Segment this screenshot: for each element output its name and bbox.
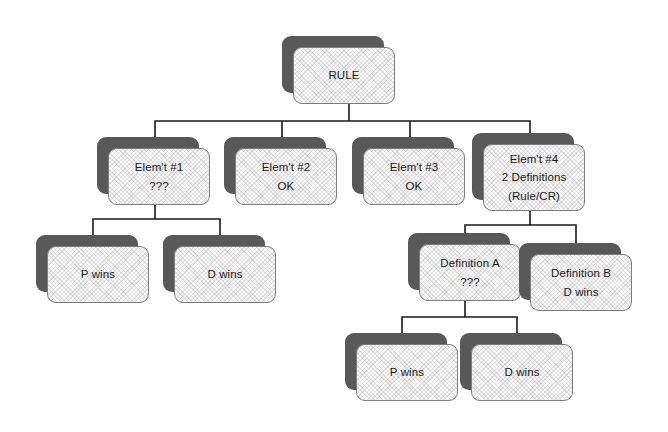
node-label-line: ??? — [460, 276, 480, 288]
node-label-line: D wins — [504, 366, 539, 378]
node-label-line: Definition A — [440, 257, 499, 269]
node-element-3[interactable]: Elem't #3OK — [352, 137, 465, 205]
node-left-p-wins[interactable]: P wins — [36, 235, 149, 303]
node-label-line: Elem't #3 — [390, 161, 438, 173]
node-label-line: OK — [278, 180, 295, 192]
diagram-canvas: RULEElem't #1???Elem't #2OKElem't #3OKEl… — [0, 0, 668, 432]
node-face[interactable]: Definition A??? — [419, 244, 521, 301]
node-label-line: P wins — [81, 268, 115, 280]
connector-definition-a-to-outcomes — [402, 301, 517, 333]
node-bottom-p-wins[interactable]: P wins — [345, 333, 458, 401]
node-element-1[interactable]: Elem't #1??? — [97, 137, 210, 205]
node-face[interactable]: P wins — [356, 344, 458, 401]
node-face[interactable]: D wins — [174, 246, 276, 303]
node-face[interactable]: Elem't #3OK — [363, 148, 465, 205]
node-definition-a[interactable]: Definition A??? — [408, 233, 521, 301]
node-face[interactable]: Definition BD wins — [530, 254, 632, 311]
node-label-line: P wins — [390, 366, 424, 378]
node-label-line: D wins — [207, 268, 242, 280]
node-label-line: ??? — [149, 180, 169, 192]
node-face[interactable]: P wins — [47, 246, 149, 303]
node-rule[interactable]: RULE — [282, 36, 395, 104]
connector-element-1-to-outcomes — [93, 205, 220, 235]
node-label-line: Definition B — [551, 267, 611, 279]
node-label-line: Elem't #4 — [510, 153, 558, 165]
node-face[interactable]: D wins — [471, 344, 573, 401]
node-label-line: Elem't #1 — [135, 161, 183, 173]
node-element-2[interactable]: Elem't #2OK — [224, 137, 337, 205]
node-face[interactable]: Elem't #1??? — [108, 148, 210, 205]
node-face[interactable]: RULE — [293, 47, 395, 104]
node-label-line: 2 Definitions — [502, 171, 567, 183]
node-face[interactable]: Elem't #2OK — [235, 148, 337, 205]
node-label-line: RULE — [328, 69, 359, 81]
node-bottom-d-wins[interactable]: D wins — [460, 333, 573, 401]
node-label-line: (Rule/CR) — [508, 190, 560, 202]
node-face[interactable]: Elem't #42 Definitions(Rule/CR) — [483, 144, 585, 211]
node-label-line: OK — [406, 180, 423, 192]
node-definition-b[interactable]: Definition BD wins — [519, 243, 632, 311]
node-left-d-wins[interactable]: D wins — [163, 235, 276, 303]
node-element-4[interactable]: Elem't #42 Definitions(Rule/CR) — [472, 133, 585, 211]
node-label-line: Elem't #2 — [262, 161, 310, 173]
node-label-line: D wins — [563, 286, 598, 298]
